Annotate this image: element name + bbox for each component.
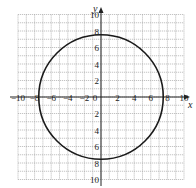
x-tick-label: 0 [93, 93, 98, 103]
x-tick-label: −10 [11, 93, 26, 103]
y-axis-arrow-icon [99, 7, 104, 13]
y-tick-label: 4 [95, 60, 100, 70]
y-tick-label: 6 [95, 142, 100, 152]
y-tick-label: 10 [90, 175, 100, 185]
x-tick-label: 2 [115, 93, 120, 103]
x-tick-label: −2 [80, 93, 90, 103]
y-tick-label: 4 [95, 126, 100, 136]
x-tick-label: −4 [63, 93, 73, 103]
x-tick-label: 4 [132, 93, 137, 103]
x-tick-label: 8 [165, 93, 170, 103]
x-tick-label: −6 [46, 93, 56, 103]
x-tick-label: 6 [149, 93, 154, 103]
y-tick-label: 10 [90, 10, 100, 20]
y-tick-label: 6 [95, 43, 100, 53]
y-tick-label: 2 [95, 76, 100, 86]
y-tick-label: 2 [95, 109, 100, 119]
x-tick-label: 10 [180, 93, 190, 103]
coordinate-plane: x y −10−8−6−4−20246810108642246810 [0, 0, 196, 188]
